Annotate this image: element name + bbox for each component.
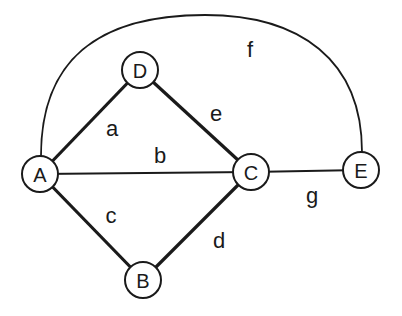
edge-label-f: f (247, 37, 254, 62)
node-label-e: E (354, 160, 367, 182)
edge-d (143, 172, 251, 280)
edge-label-b: b (154, 143, 166, 168)
edge-c (40, 174, 143, 280)
node-label-d: D (133, 60, 147, 82)
edge-label-e: e (210, 101, 222, 126)
node-a: A (22, 156, 58, 192)
node-d: D (122, 52, 158, 88)
edge-label-g: g (306, 183, 318, 208)
edge-label-d: d (213, 228, 225, 253)
node-b: B (125, 262, 161, 298)
node-label-a: A (33, 164, 47, 186)
edge-label-a: a (106, 116, 119, 141)
node-e: E (343, 152, 379, 188)
edge-f (41, 15, 362, 156)
node-label-c: C (244, 162, 258, 184)
edge-label-c: c (106, 203, 117, 228)
node-c: C (233, 154, 269, 190)
node-label-b: B (136, 270, 149, 292)
edge-b (40, 172, 251, 174)
graph-diagram: a b c d e f g A D C E B (0, 0, 402, 316)
